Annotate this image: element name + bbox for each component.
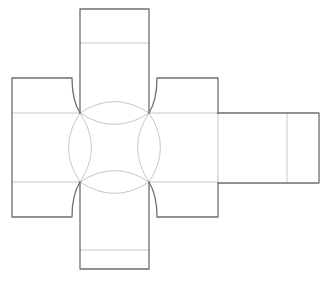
arc-top-inner [80, 113, 149, 125]
right-flap-top-outline [149, 78, 218, 113]
bottom-flap-outline [80, 182, 149, 269]
arc-top [80, 102, 149, 114]
box-net-diagram [0, 0, 327, 298]
left-flap-outline [12, 78, 80, 217]
top-flap-outline [80, 9, 149, 113]
cut-lines [12, 9, 319, 269]
arc-bottom-inner [80, 171, 149, 183]
arc-left-inner [80, 113, 92, 182]
arc-left [69, 113, 81, 182]
right-flap-bottom-outline [149, 182, 218, 217]
arc-right-inner [138, 113, 150, 182]
right-strip-outline [218, 113, 319, 183]
arc-right [149, 113, 161, 182]
arc-bottom [80, 182, 149, 194]
